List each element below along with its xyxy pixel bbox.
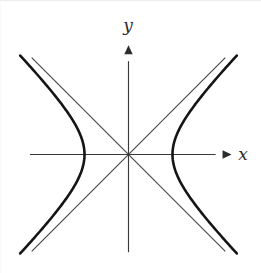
hyperbola-figure: x y: [0, 0, 261, 273]
plot-canvas: x y: [1, 1, 261, 273]
x-axis-label: x: [238, 144, 248, 164]
y-axis-label: y: [122, 15, 133, 35]
